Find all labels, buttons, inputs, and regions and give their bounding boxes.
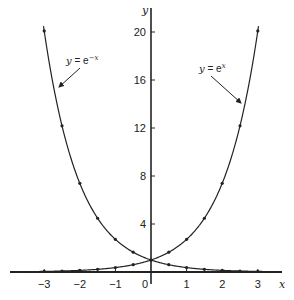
data-point: [167, 263, 170, 266]
y-tick-label: 20: [134, 26, 146, 38]
x-axis-label: x: [279, 278, 286, 291]
data-point: [96, 268, 99, 271]
data-point: [114, 266, 117, 269]
y-tick-label: 8: [140, 170, 146, 182]
data-point: [132, 251, 135, 254]
data-point: [167, 251, 170, 254]
data-point: [60, 269, 63, 272]
arrow-exp-x: [211, 76, 241, 103]
data-point: [238, 124, 241, 127]
data-point: [203, 268, 206, 271]
label-exp-neg-x: y = e−x: [65, 54, 98, 66]
data-point: [43, 270, 46, 273]
data-point: [256, 29, 259, 32]
data-point: [43, 29, 46, 32]
data-point: [149, 258, 152, 261]
data-point: [221, 269, 224, 272]
data-point: [203, 217, 206, 220]
exponential-chart: −3−2−1012348121620xy y = e−xy = ex: [0, 0, 294, 300]
x-tick-label: 0: [142, 278, 148, 290]
x-tick-label: −1: [109, 278, 122, 290]
data-point: [78, 182, 81, 185]
data-point: [238, 269, 241, 272]
data-point: [221, 182, 224, 185]
label-exp-x: y = ex: [198, 62, 226, 74]
data-point: [96, 217, 99, 220]
labels: y = e−xy = ex: [59, 54, 241, 103]
data-point: [132, 263, 135, 266]
axes: −3−2−1012348121620xy: [10, 4, 286, 291]
x-tick-label: −3: [38, 278, 51, 290]
data-point: [185, 266, 188, 269]
y-axis-label: y: [141, 4, 149, 17]
y-tick-label: 12: [134, 122, 146, 134]
x-tick-label: 2: [219, 278, 225, 290]
x-tick-label: 1: [184, 278, 190, 290]
data-point: [60, 124, 63, 127]
data-point: [185, 238, 188, 241]
x-tick-label: 3: [255, 278, 261, 290]
arrow-exp-neg-x: [59, 68, 80, 87]
y-tick-label: 16: [134, 74, 146, 86]
data-point: [78, 269, 81, 272]
data-point: [256, 270, 259, 273]
data-point: [114, 238, 117, 241]
x-tick-label: −2: [74, 278, 87, 290]
y-tick-label: 4: [140, 218, 146, 230]
